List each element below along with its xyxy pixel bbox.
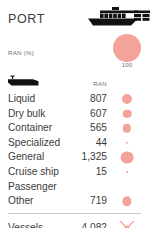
row-label: Container (8, 121, 52, 136)
table-row: Specialized 44 (0, 136, 154, 151)
row-value: 565 (55, 121, 107, 136)
table-row: Liquid 807 (0, 92, 154, 107)
legend-label: RAN (%) (8, 49, 34, 56)
vessel-type-list: Liquid 807 Dry bulk 607 Container 565 Sp… (0, 92, 154, 209)
bubble-size-legend: RAN (%) 100 (0, 40, 154, 74)
container-ship-icon (88, 7, 150, 26)
row-bubble (123, 110, 132, 119)
page-title: PORT (8, 12, 45, 26)
row-value: 607 (55, 107, 107, 122)
row-value: 719 (55, 194, 107, 209)
row-bubble-cell (113, 136, 141, 151)
table-row: Other 719 (0, 194, 154, 209)
row-bubble (122, 94, 132, 104)
row-bubble-cell (113, 194, 141, 209)
legend-bubble (113, 34, 141, 62)
row-value: 807 (55, 92, 107, 107)
row-label: Dry bulk (8, 107, 45, 122)
total-row: Vessels 4,082 (0, 219, 154, 228)
table-row: Cruise ship 15 (0, 165, 154, 180)
row-label: Other (8, 194, 33, 209)
table-row: General 1,325 (0, 150, 154, 165)
row-bubble-cell (113, 92, 141, 107)
row-bubble (126, 171, 128, 173)
row-label: Passenger (8, 180, 57, 195)
table-row: Passenger (0, 180, 154, 195)
legend-max-value: 100 (113, 61, 141, 68)
table-row: Dry bulk 607 (0, 107, 154, 122)
table-row: Container 565 (0, 121, 154, 136)
row-bubble-cell (113, 180, 141, 195)
row-label: Liquid (8, 92, 35, 107)
row-bubble (121, 151, 134, 164)
row-bubble-cell (113, 165, 141, 180)
row-bubble (122, 197, 131, 206)
row-value: 15 (55, 165, 107, 180)
port-vessel-card: PORT RAN (%) 100 (0, 0, 154, 228)
row-bubble-cell (113, 121, 141, 136)
row-label: Specialized (8, 136, 60, 151)
column-header-row: RAN (0, 74, 154, 92)
total-value: 4,082 (55, 219, 107, 228)
starburst-marker-icon (113, 219, 141, 228)
row-label: General (8, 150, 44, 165)
row-bubble-cell (113, 107, 141, 122)
vessel-silhouette-icon (7, 75, 40, 88)
total-divider (8, 213, 141, 214)
total-label: Vessels (8, 219, 43, 228)
column-header-ran: RAN (55, 80, 107, 87)
row-bubble (126, 142, 128, 144)
row-label: Cruise ship (8, 165, 59, 180)
row-bubble-cell (113, 150, 141, 165)
row-value: 1,325 (55, 150, 107, 165)
row-value: 44 (55, 136, 107, 151)
row-bubble (123, 124, 131, 132)
